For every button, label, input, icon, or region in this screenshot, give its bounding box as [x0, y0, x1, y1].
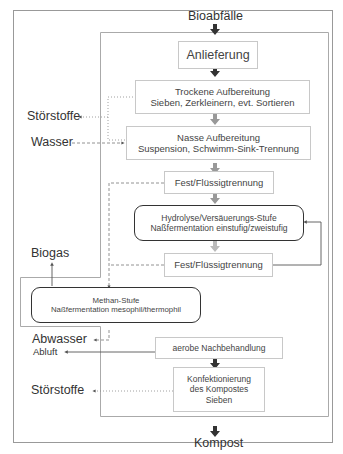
label-biogas: Biogas — [31, 246, 69, 260]
step-label-line3: Sieben — [206, 395, 232, 405]
step-nasse-aufbereitung: Nasse Aufbereitung Suspension, Schwimm-S… — [126, 126, 311, 160]
step-label-line1: Methan-Stufe — [93, 296, 140, 305]
label-wasser: Wasser — [31, 135, 73, 149]
step-hydrolyse: Hydrolyse/Versäuerungs-Stufe Naßfermenta… — [134, 205, 304, 241]
step-label-line1: Trockene Aufbereitung — [175, 86, 270, 97]
step-trockene-aufbereitung: Trockene Aufbereitung Sieben, Zerkleiner… — [135, 80, 310, 114]
step-label-line2: Naßfermentation mesophil/thermophil — [51, 305, 181, 314]
label-stoerstoffe-top: Störstoffe — [27, 109, 80, 123]
step-label-line1: Hydrolyse/Versäuerungs-Stufe — [161, 213, 276, 223]
step-methan-stufe: Methan-Stufe Naßfermentation mesophil/th… — [31, 287, 201, 323]
step-label-line2: Naßfermentation einstufig/zweistufig — [150, 223, 287, 233]
label-stoerstoffe-bottom: Störstoffe — [31, 383, 84, 397]
step-label-line2: Suspension, Schwimm-Sink-Trennung — [138, 143, 299, 154]
step-label: Fest/Flüssigtrennung — [175, 177, 264, 188]
step-fest-fluessigtrennung-1: Fest/Flüssigtrennung — [164, 171, 274, 194]
label-abwasser: Abwasser — [32, 332, 87, 346]
step-label: Fest/Flüssigtrennung — [174, 259, 263, 270]
input-label-bioabfaelle: Bioabfälle — [188, 9, 243, 23]
step-fest-fluessigtrennung-2: Fest/Flüssigtrennung — [164, 253, 273, 277]
step-konfektionierung: Konfektionierung des Kompostes Sieben — [173, 367, 265, 412]
step-label: Anlieferung — [186, 48, 249, 63]
step-label: aerobe Nachbehandlung — [172, 343, 265, 353]
step-aerobe-nachbehandlung: aerobe Nachbehandlung — [155, 337, 283, 359]
label-abluft: Abluft — [33, 346, 57, 357]
step-label-line2: des Kompostes — [190, 384, 249, 394]
output-label-kompost: Kompost — [194, 436, 243, 450]
process-diagram: Bioabfälle Anlieferung Trockene Aufberei… — [0, 0, 343, 454]
step-label-line1: Konfektionierung — [187, 374, 251, 384]
step-anlieferung: Anlieferung — [178, 41, 258, 69]
step-label-line2: Sieben, Zerkleinern, evt. Sortieren — [150, 97, 294, 108]
step-label-line1: Nasse Aufbereitung — [177, 132, 260, 143]
